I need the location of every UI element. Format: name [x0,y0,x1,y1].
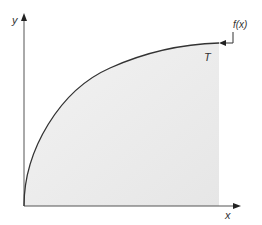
fx-pointer-line [225,32,233,43]
shaded-area [24,43,219,206]
curve-label-t: T [204,52,211,63]
curve-diagram [0,0,262,225]
y-axis-label: y [12,15,18,26]
function-label: f(x) [233,20,247,30]
x-axis-arrow-icon [233,203,241,209]
x-axis-label: x [225,210,231,221]
fx-pointer-arrow-icon [219,40,226,46]
y-axis-arrow-icon [21,13,27,21]
